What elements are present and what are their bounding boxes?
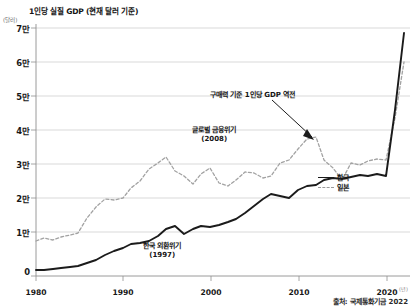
annotation-imf-line1: 한국 외환위기: [143, 242, 181, 251]
chart-plot-area: [0, 0, 414, 308]
y-tick-10000: 1만: [16, 226, 30, 238]
y-tick-70000: 7만: [16, 22, 30, 34]
annotation-ppp-crossover: 구매력 기준 1인당 GDP 역전: [210, 91, 295, 100]
x-axis-ticks: [36, 276, 387, 281]
y-tick-20000: 2만: [16, 192, 30, 204]
x-axis-unit-label: (년): [399, 285, 408, 292]
y-tick-60000: 6만: [16, 56, 30, 68]
annotation-gfc-line2: (2008): [192, 135, 236, 144]
legend-swatch-dashed-icon: [318, 187, 334, 188]
legend-item-japan: 일본: [318, 182, 364, 192]
legend-label-japan: 일본: [337, 182, 349, 192]
annotation-global-financial-crisis: 글로벌 금융위기 (2008): [192, 126, 236, 145]
y-tick-50000: 5만: [16, 90, 30, 102]
chart-title: 1인당 실질 GDP (현재 달러 기준): [29, 5, 138, 16]
x-tick-1980: 1980: [25, 288, 46, 297]
y-tick-40000: 4만: [16, 124, 30, 136]
annotation-imf-line2: (1997): [143, 251, 181, 260]
series-line-korea: [36, 33, 404, 270]
legend-swatch-solid-icon: [318, 177, 334, 178]
y-axis-ticks: [31, 28, 36, 276]
y-tick-0: 0: [24, 267, 30, 277]
legend-label-korea: 한국: [337, 172, 349, 182]
annotation-korea-imf-crisis: 한국 외환위기 (1997): [143, 242, 181, 261]
annotation-gfc-line1: 글로벌 금융위기: [192, 126, 236, 135]
chart-container: 1인당 실질 GDP (현재 달러 기준) (달러) 7만 6만 5만 4만 3…: [0, 0, 414, 308]
legend-item-korea: 한국: [318, 172, 364, 182]
series-line-japan: [36, 62, 404, 241]
y-tick-30000: 3만: [16, 158, 30, 170]
source-note: 출처: 국제통화기금 2022: [333, 296, 408, 306]
x-tick-2010: 2010: [288, 288, 309, 297]
chart-legend: 한국 일본: [318, 172, 364, 192]
crossover-arrow: [272, 100, 314, 140]
x-tick-1990: 1990: [112, 288, 133, 297]
x-tick-2000: 2000: [200, 288, 221, 297]
